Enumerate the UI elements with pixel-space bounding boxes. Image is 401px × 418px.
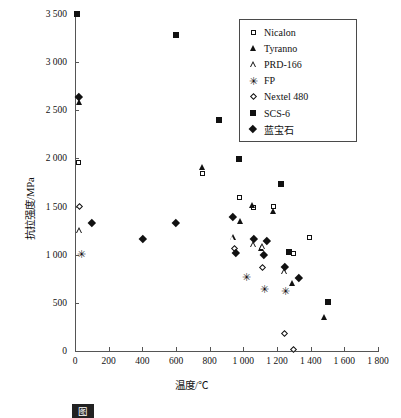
data-point: [74, 11, 80, 17]
legend-marker-icon: [250, 45, 256, 51]
data-point: ✳: [260, 286, 267, 293]
data-point: [200, 171, 205, 176]
legend-marker-icon: ✳: [249, 78, 258, 84]
y-axis-tick-label: 3 000: [0, 57, 67, 67]
legend-marker-icon: [250, 126, 256, 132]
legend-item-nextel-480[interactable]: Nextel 480: [246, 89, 350, 105]
legend-marker-icon: [246, 94, 260, 99]
x-axis-tick: [142, 347, 143, 352]
data-point: [216, 117, 222, 123]
y-axis-tick: [75, 303, 79, 304]
y-axis-tick-label: 2 500: [0, 105, 67, 115]
x-axis-tick: [277, 347, 278, 352]
data-point: [249, 202, 256, 208]
data-point: [76, 160, 81, 165]
data-point: [199, 164, 206, 170]
data-point: [291, 347, 296, 352]
legend-marker-icon: [251, 30, 256, 35]
x-axis-tick: [378, 347, 379, 352]
data-point: ✳: [77, 251, 84, 258]
legend-marker-icon: [251, 94, 256, 99]
data-point: [237, 195, 242, 200]
x-axis-tick-label: 1 800: [358, 356, 398, 366]
x-axis-tick: [344, 347, 345, 352]
chart-legend: NicalonTyrannoPRD-166✳FPNextel 480SCS-6蓝…: [239, 19, 357, 142]
legend-label: Nicalon: [264, 27, 296, 38]
data-point: [77, 204, 82, 209]
legend-label: PRD-166: [264, 59, 302, 70]
x-axis-label: 温度/℃: [175, 377, 208, 392]
legend-marker-icon: [246, 30, 260, 35]
legend-item-prd-166[interactable]: PRD-166: [246, 56, 350, 72]
data-point: [321, 314, 328, 320]
legend-marker-icon: [250, 110, 256, 116]
data-point: [286, 249, 292, 255]
legend-item-tyranno[interactable]: Tyranno: [246, 40, 350, 56]
figure-caption: 图: [72, 404, 100, 418]
data-point: [296, 275, 302, 281]
data-point: [230, 234, 237, 240]
caption-number: 图: [72, 404, 94, 418]
x-axis-tick: [176, 347, 177, 352]
legend-item-scs-6[interactable]: SCS-6: [246, 105, 350, 121]
legend-marker-icon: [246, 61, 260, 67]
data-point: [270, 208, 277, 214]
x-axis-line: [75, 351, 378, 352]
y-axis-tick-label: 0: [0, 346, 67, 356]
legend-marker-icon: ✳: [246, 78, 260, 84]
data-point: [260, 265, 265, 270]
data-point: [76, 227, 83, 233]
legend-label: Tyranno: [264, 43, 297, 54]
data-point: [278, 181, 284, 187]
y-axis-tick: [75, 62, 79, 63]
data-point: [230, 214, 236, 220]
x-axis-tick: [210, 347, 211, 352]
data-point: [173, 32, 179, 38]
data-point: [291, 251, 296, 256]
legend-label: Nextel 480: [264, 91, 308, 102]
x-axis-tick: [75, 347, 76, 352]
data-point: [236, 156, 242, 162]
data-point: [76, 94, 82, 100]
legend-label: 蓝宝石: [264, 122, 294, 137]
legend-marker-icon: [246, 45, 260, 51]
data-point: [325, 299, 331, 305]
data-point: [237, 218, 244, 224]
legend-marker-icon: [246, 110, 260, 116]
data-point: [251, 236, 257, 242]
x-axis-tick: [311, 347, 312, 352]
y-axis-tick: [75, 110, 79, 111]
data-point: [282, 264, 288, 270]
y-axis-tick-label: 1 000: [0, 250, 67, 260]
data-point: ✳: [242, 274, 249, 281]
data-point: [264, 238, 270, 244]
x-axis-tick: [109, 347, 110, 352]
y-axis-label: 抗拉强度/MPa: [22, 177, 37, 240]
data-point: [140, 236, 146, 242]
y-axis-tick-label: 2 000: [0, 153, 67, 163]
legend-marker-icon: [250, 61, 256, 67]
data-point: [173, 220, 179, 226]
data-point: [233, 250, 239, 256]
legend-item-fp[interactable]: ✳FP: [246, 73, 350, 89]
legend-item-nicalon[interactable]: Nicalon: [246, 24, 350, 40]
data-point: ✳: [281, 288, 288, 295]
data-point: [89, 220, 95, 226]
y-axis-tick-label: 3 500: [0, 9, 67, 19]
data-point: [261, 252, 267, 258]
data-point: [307, 235, 312, 240]
x-axis-tick: [243, 347, 244, 352]
y-axis-tick-label: 500: [0, 298, 67, 308]
data-point: [282, 331, 287, 336]
legend-marker-icon: [246, 126, 260, 132]
legend-label: SCS-6: [264, 108, 290, 119]
legend-item-蓝宝石[interactable]: 蓝宝石: [246, 121, 350, 137]
legend-label: FP: [264, 75, 275, 86]
y-axis-line: [75, 14, 76, 352]
